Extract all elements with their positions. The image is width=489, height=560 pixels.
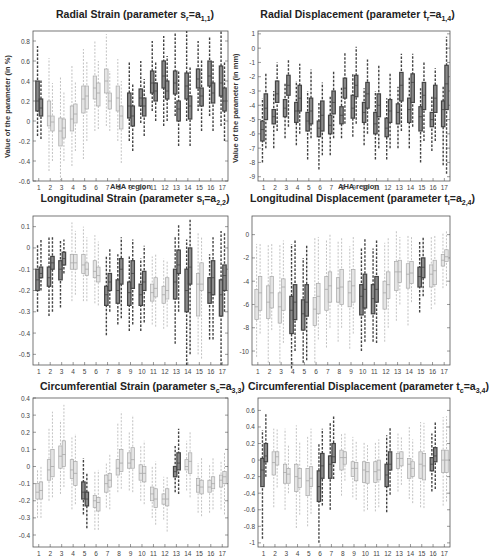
box-plot — [445, 416, 448, 501]
y-tick-label: 0.2 — [246, 440, 255, 447]
y-tick-label: -1 — [249, 539, 255, 546]
x-tick-label: 11 — [150, 550, 157, 557]
longitudinal-displacement-panel: Longitudinal Displacement (parameter tl=… — [228, 186, 457, 376]
y-tick-label: -7 — [249, 145, 255, 152]
y-tick-label: -3 — [249, 88, 255, 95]
box-plot — [211, 458, 214, 509]
box-plot — [97, 242, 100, 306]
x-tick-label: 11 — [373, 550, 380, 557]
box-plot — [70, 222, 73, 301]
y-tick-label: -0.4 — [19, 532, 31, 539]
y-tick-label: -5 — [249, 116, 255, 123]
x-tick-label: 17 — [441, 550, 449, 557]
y-tick-label: 0 — [26, 244, 30, 251]
box-plot — [398, 237, 401, 305]
box-plot — [128, 61, 131, 141]
box-plot — [62, 405, 65, 487]
box-plot — [219, 31, 222, 126]
x-tick-label: 14 — [407, 550, 415, 557]
box-plot — [406, 235, 409, 326]
y-tick-label: -0.1 — [19, 480, 31, 487]
box-plot — [105, 34, 108, 126]
x-tick-label: 12 — [161, 550, 169, 557]
box-plot — [351, 437, 354, 497]
y-tick-label: -0.2 — [244, 473, 256, 480]
box-plot — [116, 59, 119, 141]
y-tick-label: 0.8 — [21, 38, 30, 45]
x-tick-label: 10 — [362, 550, 370, 557]
box-plot — [85, 237, 88, 301]
y-tick-label: -8 — [243, 324, 249, 331]
x-tick-label: 13 — [396, 550, 404, 557]
box-plot — [441, 232, 444, 288]
box-plot — [410, 236, 413, 302]
box-plot — [188, 432, 191, 497]
radial-displacement-panel: Radial Displacement (parameter tr=a1,4) … — [228, 0, 457, 190]
radial-displacement-plot: -9-8-7-6-5-4-3-2-10112345678910111213141… — [228, 0, 457, 190]
x-tick-label: 16 — [207, 550, 215, 557]
y-tick-label: 0 — [26, 118, 30, 125]
box-plot — [317, 237, 320, 339]
box-plot — [355, 442, 358, 500]
box-plot — [70, 66, 73, 166]
box-plot — [287, 445, 290, 493]
y-tick-label: -0.2 — [19, 138, 31, 145]
box-plot — [430, 434, 433, 492]
y-tick-label: 0.2 — [21, 429, 30, 436]
box-plot — [309, 429, 312, 514]
box-plot — [408, 427, 411, 499]
x-tick-label: 8 — [117, 550, 121, 557]
circumferential-strain-plot: -0.4-0.3-0.2-0.100.10.20.30.412345678910… — [0, 370, 230, 560]
y-tick-label: -8 — [249, 159, 255, 166]
x-tick-label: 17 — [219, 550, 227, 557]
box-plot — [47, 429, 50, 501]
box-plot — [59, 239, 62, 307]
y-tick-label: -4 — [243, 278, 249, 285]
box-plot — [305, 245, 308, 360]
box-plot — [223, 453, 226, 515]
box-plot — [445, 37, 448, 174]
y-tick-label: -0.4 — [19, 330, 31, 337]
box-plot — [411, 439, 414, 503]
y-tick-label: 0.4 — [21, 395, 30, 402]
box-plot — [142, 246, 145, 323]
y-tick-label: -0.6 — [19, 178, 31, 185]
box-plot — [196, 463, 199, 513]
y-tick-label: 0 — [251, 457, 255, 464]
y-tick-label: 0.3 — [21, 412, 30, 419]
y-tick-label: -0.8 — [244, 523, 256, 530]
y-tick-label: -0.4 — [19, 158, 31, 165]
y-tick-label: -9 — [249, 173, 255, 180]
x-tick-label: 14 — [184, 550, 192, 557]
box-plot — [208, 465, 211, 513]
box-plot — [433, 235, 436, 305]
box-plot — [422, 423, 425, 508]
y-tick-label: 0.4 — [21, 78, 30, 85]
box-plot — [430, 236, 433, 309]
x-tick-label: 6 — [318, 550, 322, 557]
box-plot — [441, 417, 444, 506]
x-tick-label: 10 — [138, 550, 146, 557]
y-tick-label: -0.6 — [244, 506, 256, 513]
box-plot — [396, 434, 399, 492]
box-plot — [51, 83, 54, 161]
y-tick-label: 0.4 — [246, 423, 255, 430]
box-plot — [306, 437, 309, 526]
box-plot — [154, 461, 157, 524]
radial-strain-panel: Radial Strain (parameter sr=a1,1) Value … — [0, 0, 230, 190]
box-plot — [185, 441, 188, 491]
box-plot — [375, 240, 378, 342]
y-tick-label: -0.2 — [19, 287, 31, 294]
box-plot — [200, 237, 203, 358]
box-plot — [162, 259, 165, 329]
title-close: ) — [485, 380, 489, 392]
x-tick-label: 1 — [262, 550, 266, 557]
box-plot — [139, 259, 142, 331]
y-tick-label: 0 — [26, 463, 30, 470]
box-plot — [62, 91, 65, 161]
box-plot — [70, 437, 73, 509]
box-plot — [59, 76, 62, 181]
y-tick-label: 0.6 — [246, 407, 255, 414]
box-plot — [298, 442, 301, 515]
box-plot — [211, 237, 214, 339]
